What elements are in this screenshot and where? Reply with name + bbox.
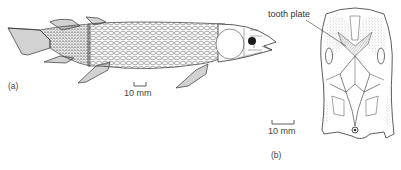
skull-illustration	[321, 8, 394, 139]
fish-illustration	[8, 17, 276, 88]
scale-bar-b: 10 mm	[268, 120, 296, 136]
scale-bar-a-label: 10 mm	[124, 88, 152, 98]
tooth-plate-label: tooth plate	[268, 9, 310, 19]
operculum	[216, 29, 244, 59]
scale-bar-b-label: 10 mm	[268, 126, 296, 136]
fish-body	[88, 22, 225, 69]
scale-bar-a: 10 mm	[124, 82, 152, 98]
skull-fenestra-right	[378, 48, 385, 64]
panel-a-label: (a)	[8, 81, 19, 91]
panel-b-label: (b)	[271, 150, 282, 160]
fish-eye	[248, 37, 256, 45]
figure-canvas: (a) 10 mm tooth plate 10 m	[0, 0, 401, 170]
skull-fenestra-left	[326, 48, 333, 64]
pectoral-fin	[176, 64, 208, 88]
